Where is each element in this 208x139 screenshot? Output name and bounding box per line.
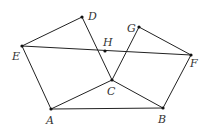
point-e [20,44,23,47]
geometry-diagram: ABCDEFGH [0,0,208,139]
diagram-svg: ABCDEFGH [0,0,208,139]
point-label-g: G [127,22,136,35]
point-a [49,107,52,110]
segment-fg [139,27,191,55]
segment-ed [22,17,82,46]
point-d [80,15,83,18]
segment-ab [51,108,163,109]
point-b [161,106,164,109]
segment-bf [163,55,191,108]
point-label-h: H [102,36,113,49]
point-label-e: E [11,50,20,63]
segment-ea [22,46,51,109]
point-label-a: A [45,114,54,127]
point-label-f: F [189,57,198,70]
point-g [137,25,140,28]
segment-ac [51,80,112,109]
point-h [103,49,106,52]
point-label-d: D [87,10,97,23]
segment-cb [112,80,163,108]
point-label-c: C [107,85,116,98]
point-label-b: B [157,113,166,126]
labels-group: ABCDEFGH [11,10,198,127]
point-c [110,78,113,81]
